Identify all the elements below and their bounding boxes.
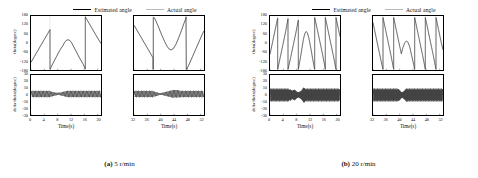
- panel-b-error-window1: [269, 74, 341, 116]
- x-tick: 32: [370, 117, 374, 122]
- legend-entry-estimated: Estimated angle: [312, 7, 370, 13]
- legend-label-estimated: Estimated angle: [333, 7, 370, 13]
- panel-b-error-window2: [372, 74, 444, 116]
- y-tick: 0: [265, 93, 267, 97]
- y-tick: 120: [261, 22, 267, 26]
- caption-b: (b) 20 r/min: [239, 160, 478, 168]
- y-tick: -10: [261, 100, 267, 104]
- x-tick: 32: [131, 117, 135, 122]
- x-tick: 48: [186, 117, 190, 122]
- caption-a-text: 5 r/min: [113, 160, 135, 168]
- subfigure-a: Estimated angle Actual angle 180 120 60 …: [0, 0, 239, 178]
- plot-grid-a: 180 120 60 0 -60 -120 -180 theta(degree)…: [0, 13, 239, 135]
- x-tick: 4: [43, 117, 45, 122]
- x-tick: 36: [145, 117, 149, 122]
- x-tick: 4: [282, 117, 284, 122]
- x-tick: 8: [56, 117, 58, 122]
- x-tick: 48: [425, 117, 429, 122]
- legend-line-light-icon: [146, 9, 164, 10]
- legend-entry-actual: Actual angle: [385, 7, 436, 13]
- x-tick: 16: [322, 117, 326, 122]
- y-tick: -20: [22, 107, 28, 111]
- legend-label-actual: Actual angle: [406, 7, 436, 13]
- y-tick: -120: [259, 60, 267, 64]
- y-tick: 180: [261, 13, 267, 17]
- y-tick: 30: [24, 72, 28, 76]
- x-axis-title-a-window1: Time(s): [30, 123, 102, 129]
- y-tick: 10: [263, 86, 267, 90]
- caption-b-tag: (b): [341, 160, 350, 168]
- y-tick: 20: [24, 79, 28, 83]
- x-tick: 16: [83, 117, 87, 122]
- x-tick: 40: [158, 117, 162, 122]
- panel-a-angle-window2: [133, 15, 205, 71]
- y-tick: -10: [22, 100, 28, 104]
- y-tick: 60: [24, 32, 28, 36]
- y-tick: 180: [22, 13, 28, 17]
- y-tick: -120: [20, 60, 28, 64]
- panel-a-angle-window1: [30, 15, 102, 71]
- subfigure-b: Estimated angle Actual angle 180 120 60 …: [239, 0, 478, 178]
- legend-line-solid-icon: [312, 9, 330, 10]
- y-tick: 10: [24, 86, 28, 90]
- x-tick: 52: [438, 117, 442, 122]
- x-axis-title-a-window2: Time(s): [133, 123, 205, 129]
- y-axis-title-error-a: delta-theta(degree): [12, 63, 17, 127]
- y-tick: -30: [22, 114, 28, 118]
- y-tick: 30: [263, 72, 267, 76]
- plot-grid-b: 180 120 60 0 -60 -120 -180 theta(degree)…: [239, 13, 478, 135]
- x-tick: 44: [172, 117, 176, 122]
- y-tick: 60: [263, 32, 267, 36]
- legend-line-light-icon: [385, 9, 403, 10]
- x-tick: 20: [335, 117, 339, 122]
- x-tick: 0: [268, 117, 270, 122]
- x-tick: 0: [29, 117, 31, 122]
- caption-b-text: 20 r/min: [350, 160, 376, 168]
- y-tick: -30: [261, 114, 267, 118]
- x-tick: 36: [384, 117, 388, 122]
- legend-entry-estimated: Estimated angle: [73, 7, 131, 13]
- legend-label-estimated: Estimated angle: [94, 7, 131, 13]
- y-tick: 0: [26, 41, 28, 45]
- y-tick: -20: [261, 107, 267, 111]
- x-tick: 12: [69, 117, 73, 122]
- y-tick: -60: [22, 50, 28, 54]
- caption-a-tag: (a): [104, 160, 112, 168]
- legend-line-solid-icon: [73, 9, 91, 10]
- x-tick: 8: [295, 117, 297, 122]
- panel-b-angle-window2: [372, 15, 444, 71]
- y-tick: 20: [263, 79, 267, 83]
- legend-label-actual: Actual angle: [167, 7, 197, 13]
- y-tick: 0: [26, 93, 28, 97]
- legend-entry-actual: Actual angle: [146, 7, 197, 13]
- x-tick: 40: [397, 117, 401, 122]
- panel-a-error-window2: [133, 74, 205, 116]
- y-tick: 0: [265, 41, 267, 45]
- x-axis-title-b-window1: Time(s): [269, 123, 341, 129]
- y-tick: -60: [261, 50, 267, 54]
- x-tick: 20: [96, 117, 100, 122]
- x-tick: 12: [308, 117, 312, 122]
- panel-b-angle-window1: [269, 15, 341, 71]
- figure-root: Estimated angle Actual angle 180 120 60 …: [0, 0, 478, 178]
- x-axis-title-b-window2: Time(s): [372, 123, 444, 129]
- x-tick: 52: [199, 117, 203, 122]
- caption-a: (a) 5 r/min: [0, 160, 239, 168]
- x-tick: 44: [411, 117, 415, 122]
- panel-a-error-window1: [30, 74, 102, 116]
- y-tick: 120: [22, 22, 28, 26]
- y-axis-title-error-b: delta-theta(degree): [251, 63, 256, 127]
